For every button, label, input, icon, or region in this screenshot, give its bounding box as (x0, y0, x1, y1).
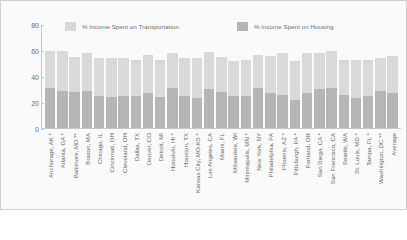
x-axis-label: Denver, CO (144, 133, 151, 165)
x-axis-label-cell: Detroit, MI (155, 131, 165, 207)
x-axis-label: San Francisco, CA (328, 133, 335, 184)
x-axis-labels: Anchorage, AK *Atlanta, GA *Baltimore, M… (42, 131, 401, 207)
x-axis-label-cell: St. Louis, MD * (351, 131, 361, 207)
bar-column[interactable] (143, 25, 153, 128)
bar-segment-transportation (204, 52, 214, 89)
bar-segment-housing (106, 97, 116, 128)
bar-column[interactable] (118, 25, 128, 128)
x-axis-label: Kansas City, MO-KS * (193, 133, 200, 193)
bar-segment-transportation (179, 58, 189, 95)
x-axis-label-cell: San Diego, CA * (314, 131, 324, 207)
bar-segment-housing (241, 96, 251, 128)
x-axis-label: Miami, FL (218, 133, 225, 160)
bar-segment-housing (167, 88, 177, 128)
x-axis-label-cell: Dallas, TX (131, 131, 141, 207)
bar-column[interactable] (351, 25, 361, 128)
x-axis-label: Pittsburgh, PA * (291, 133, 298, 176)
bar-column[interactable] (155, 25, 165, 128)
x-axis-label-cell: Cleveland, OH (118, 131, 128, 207)
bar-segment-housing (143, 93, 153, 128)
bar-column[interactable] (192, 25, 202, 128)
y-axis-tick-label: 60 (9, 48, 39, 55)
x-axis-label-cell: Cincinnati, OH (106, 131, 116, 207)
bar-segment-housing (290, 100, 300, 128)
bar-column[interactable] (387, 25, 397, 128)
bar-segment-housing (69, 92, 79, 128)
x-axis-label-cell: Los Angeles, CA (204, 131, 214, 207)
bar-column[interactable] (241, 25, 251, 128)
x-axis-label-cell: Seattle, WA (339, 131, 349, 207)
x-axis-label: Baltimore, MD ** (71, 133, 78, 178)
x-axis-label-cell: Chicago, IL (94, 131, 104, 207)
bar-segment-transportation (290, 61, 300, 100)
bar-column[interactable] (216, 25, 226, 128)
bar-column[interactable] (228, 25, 238, 128)
bar-segment-housing (253, 88, 263, 128)
bar-column[interactable] (167, 25, 177, 128)
x-axis-label-cell: Phoenix, AZ * (277, 131, 287, 207)
x-axis-label-cell: Miami, FL (216, 131, 226, 207)
bar-segment-housing (82, 91, 92, 128)
x-axis-label: Boston, MA (83, 133, 90, 165)
bar-column[interactable] (339, 25, 349, 128)
bar-column[interactable] (131, 25, 141, 128)
x-axis-label: Seattle, WA (340, 133, 347, 165)
x-axis-label: Portland, OR (304, 133, 311, 168)
bar-segment-housing (277, 95, 287, 128)
x-axis-label: Tampa, FL * (365, 133, 372, 166)
x-axis-label: Houston, TX (181, 133, 188, 167)
bar-segment-housing (118, 96, 128, 128)
bar-column[interactable] (106, 25, 116, 128)
x-axis-label-cell: Tampa, FL * (363, 131, 373, 207)
x-axis-label-cell: Average (387, 131, 397, 207)
bar-column[interactable] (179, 25, 189, 128)
x-axis-label: Anchorage, AK * (47, 133, 54, 178)
bar-segment-transportation (241, 60, 251, 96)
bar-segment-housing (45, 88, 55, 128)
y-axis-tick-mark (41, 129, 44, 130)
y-axis-tick-label: 0 (9, 126, 39, 133)
x-axis-label-cell: New York, NY (253, 131, 263, 207)
x-axis-label: Atlanta, GA * (59, 133, 66, 168)
bar-segment-housing (94, 96, 104, 128)
bar-column[interactable] (253, 25, 263, 128)
bar-segment-housing (155, 97, 165, 128)
bar-column[interactable] (57, 25, 67, 128)
y-axis-tick-label: 80 (9, 22, 39, 29)
bar-column[interactable] (277, 25, 287, 128)
bar-segment-housing (57, 91, 67, 128)
x-axis-label: Detroit, MI (157, 133, 164, 161)
bar-column[interactable] (363, 25, 373, 128)
bar-segment-housing (363, 96, 373, 128)
bar-segment-transportation (253, 55, 263, 88)
x-axis-label: New York, NY (255, 133, 262, 171)
bar-segment-transportation (192, 58, 202, 98)
bar-column[interactable] (204, 25, 214, 128)
x-axis-label: Milwaukee, WI (230, 133, 237, 173)
bar-column[interactable] (314, 25, 324, 128)
x-axis-label: Cincinnati, OH (108, 133, 115, 173)
x-axis-label-cell: Kansas City, MO-KS * (192, 131, 202, 207)
y-axis-tick-label: 40 (9, 74, 39, 81)
bar-column[interactable] (265, 25, 275, 128)
x-axis-label: Dallas, TX (132, 133, 139, 161)
x-axis-label: Honolulu, HI * (169, 133, 176, 171)
bar-segment-transportation (167, 53, 177, 88)
bar-column[interactable] (290, 25, 300, 128)
x-axis-label: Washington, DC ** (377, 133, 384, 184)
bar-column[interactable] (94, 25, 104, 128)
bar-segment-housing (216, 92, 226, 128)
bar-column[interactable] (326, 25, 336, 128)
plot-area: 020406080 (41, 25, 401, 129)
bar-column[interactable] (375, 25, 385, 128)
bar-segment-housing (339, 95, 349, 128)
x-axis-label: Minneapolis, MN * (242, 133, 249, 183)
bar-segment-transportation (387, 56, 397, 93)
bar-column[interactable] (82, 25, 92, 128)
bar-column[interactable] (45, 25, 55, 128)
bar-segment-housing (131, 96, 141, 128)
bar-column[interactable] (302, 25, 312, 128)
bar-segment-housing (302, 93, 312, 128)
x-axis-label-cell: Anchorage, AK * (45, 131, 55, 207)
bar-column[interactable] (69, 25, 79, 128)
